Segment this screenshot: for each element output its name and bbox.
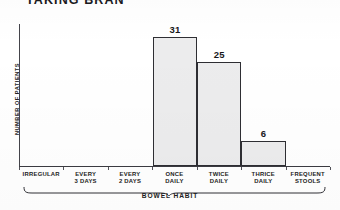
bar-value-label: 31: [153, 24, 197, 35]
category-line-2: DAILY: [165, 178, 183, 184]
category-line-1: EVERY: [120, 171, 141, 177]
category-line-2: DAILY: [210, 178, 228, 184]
category-label-frequent-stools: FREQUENT STOOLS: [286, 170, 330, 188]
category-label-irregular: IRREGULAR: [19, 170, 63, 188]
category-label-thrice-daily: THRICE DAILY: [241, 170, 285, 188]
bar-column[interactable]: 31: [153, 24, 197, 166]
category-label-every-2-days: EVERY 2 DAYS: [108, 170, 152, 188]
bar-once-daily[interactable]: [153, 37, 197, 166]
category-label-every-3-days: EVERY 3 DAYS: [63, 170, 107, 188]
category-line-2: 3 DAYS: [75, 178, 97, 184]
category-label-twice-daily: TWICE DAILY: [197, 170, 241, 188]
bar-column[interactable]: 25: [197, 24, 241, 166]
x-axis-label: BOWEL HABIT: [0, 192, 340, 199]
bar-column[interactable]: 6: [241, 24, 285, 166]
category-line-1: FREQUENT: [291, 171, 325, 177]
x-axis-category-labels: IRREGULAR EVERY 3 DAYS EVERY 2 DAYS ONCE…: [19, 170, 330, 188]
x-axis-tick: [330, 167, 331, 170]
bar-column[interactable]: [109, 24, 153, 166]
bar-value-label: 25: [197, 49, 241, 60]
category-line-1: EVERY: [75, 171, 96, 177]
bar-value-label: 6: [241, 128, 285, 139]
bar-column[interactable]: [20, 24, 64, 166]
category-line-1: ONCE: [165, 171, 183, 177]
bar-thrice-daily[interactable]: [241, 141, 285, 166]
bar-twice-daily[interactable]: [197, 62, 241, 166]
category-line-1: IRREGULAR: [23, 171, 60, 177]
bar-column[interactable]: [286, 24, 330, 166]
category-line-1: THRICE: [252, 171, 275, 177]
chart-title: TAKING BRAN: [26, 0, 125, 7]
category-line-1: TWICE: [209, 171, 229, 177]
bar-column[interactable]: [64, 24, 108, 166]
bar-series: 31 25 6: [20, 24, 330, 166]
category-line-2: DAILY: [254, 178, 272, 184]
plot-area: 31 25 6: [19, 24, 330, 167]
category-line-2: 2 DAYS: [119, 178, 141, 184]
category-line-2: STOOLS: [295, 178, 321, 184]
category-label-once-daily: ONCE DAILY: [152, 170, 196, 188]
